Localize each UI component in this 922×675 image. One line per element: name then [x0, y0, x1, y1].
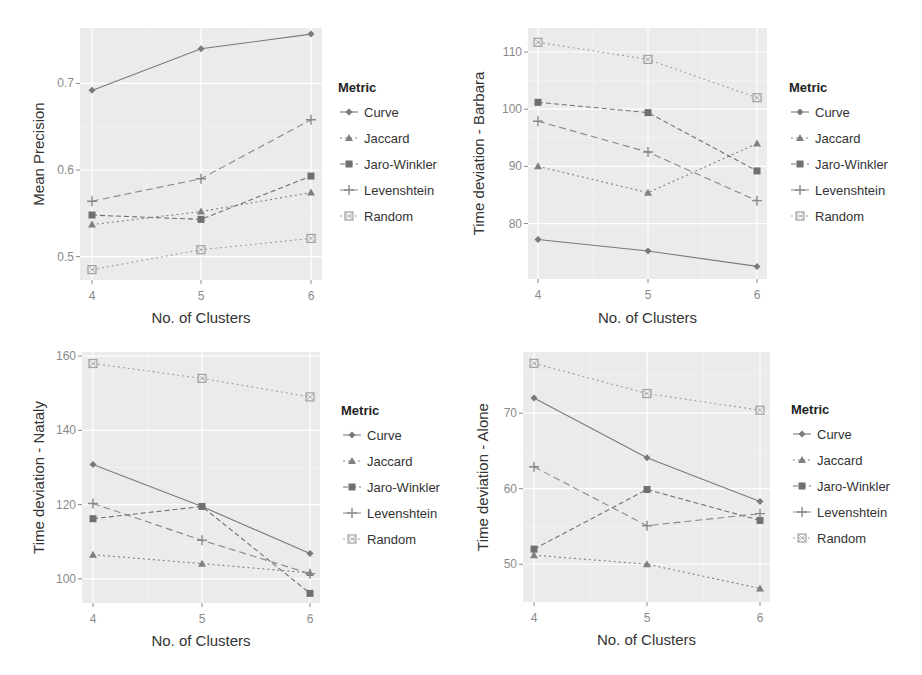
y-axis-title: Mean Precision: [30, 102, 47, 205]
y-axis-title: Time deviation - Nataly: [30, 401, 47, 554]
legend-label: Levenshtein: [817, 505, 887, 520]
x-tick-label: 6: [754, 288, 761, 302]
y-tick-label: 80: [509, 217, 523, 231]
x-axis-title: No. of Clusters: [598, 309, 697, 326]
legend-item-random: Random: [791, 209, 864, 224]
x-tick-label: 4: [535, 288, 542, 302]
marker-square-icon: [198, 216, 205, 223]
legend-item-jaccard: Jaccard: [791, 131, 861, 146]
x-tick-label: 5: [644, 611, 651, 625]
marker-square-icon: [797, 161, 804, 168]
marker-plus-icon: [795, 185, 805, 195]
chart-panel-4: 506070456No. of ClustersTime deviation -…: [474, 352, 891, 648]
marker-square-icon: [346, 161, 353, 168]
legend-item-curve: Curve: [791, 105, 850, 120]
y-axis: 506070: [504, 406, 523, 571]
legend-label: Levenshtein: [364, 183, 434, 198]
x-tick-label: 6: [307, 612, 314, 626]
marker-square-icon: [90, 515, 97, 522]
marker-diamond-icon: [799, 431, 806, 438]
legend-label: Curve: [367, 428, 402, 443]
marker-square-icon: [799, 483, 806, 490]
y-tick-label: 60: [504, 482, 518, 496]
marker-square-icon: [644, 486, 651, 493]
legend-item-random: Random: [793, 531, 866, 546]
x-axis: 456: [90, 603, 314, 626]
x-axis: 456: [531, 602, 764, 625]
legend-title: Metric: [789, 80, 827, 95]
legend-label: Jaro-Winkler: [815, 157, 889, 172]
y-tick-label: 160: [56, 349, 76, 363]
figure-grid: 0.50.60.7456No. of ClustersMean Precisio…: [0, 0, 922, 675]
legend-label: Curve: [815, 105, 850, 120]
y-axis-title: Time deviation - Barbara: [470, 71, 487, 235]
y-axis-title: Time deviation - Alone: [474, 403, 491, 551]
legend: MetricCurveJaccardJaro-WinklerLevenshtei…: [338, 80, 438, 224]
y-tick-label: 70: [504, 406, 518, 420]
legend-item-levenshtein: Levenshtein: [340, 183, 434, 198]
y-axis: 100120140160: [56, 349, 82, 586]
marker-plus-icon: [344, 185, 354, 195]
y-tick-label: 100: [56, 572, 76, 586]
legend-item-jaro-winkler: Jaro-Winkler: [791, 157, 889, 172]
chart-panel-2: 8090100110456No. of ClustersTime deviati…: [470, 28, 889, 326]
legend: MetricCurveJaccardJaro-WinklerLevenshtei…: [789, 80, 889, 224]
x-axis: 456: [535, 279, 761, 302]
marker-square-icon: [307, 590, 314, 597]
legend-item-curve: Curve: [340, 105, 399, 120]
y-tick-label: 0.6: [57, 163, 74, 177]
x-axis: 456: [89, 280, 315, 303]
legend-label: Jaccard: [817, 453, 863, 468]
legend-title: Metric: [341, 403, 379, 418]
y-tick-label: 90: [509, 159, 523, 173]
legend-item-jaccard: Jaccard: [793, 453, 863, 468]
y-tick-label: 0.7: [57, 76, 74, 90]
legend-label: Curve: [364, 105, 399, 120]
legend-item-jaro-winkler: Jaro-Winkler: [343, 480, 441, 495]
y-axis: 8090100110: [502, 45, 528, 231]
legend-item-levenshtein: Levenshtein: [791, 183, 885, 198]
x-axis-title: No. of Clusters: [597, 631, 696, 648]
legend-item-curve: Curve: [343, 428, 402, 443]
legend-label: Random: [815, 209, 864, 224]
marker-diamond-icon: [349, 432, 356, 439]
legend-item-random: Random: [343, 532, 416, 547]
legend-item-random: Random: [340, 209, 413, 224]
legend-label: Jaccard: [815, 131, 861, 146]
legend-item-jaro-winkler: Jaro-Winkler: [340, 157, 438, 172]
x-tick-label: 4: [531, 611, 538, 625]
x-axis-title: No. of Clusters: [151, 309, 250, 326]
x-tick-label: 6: [308, 289, 315, 303]
chart-panel-3: 100120140160456No. of ClustersTime devia…: [30, 349, 441, 649]
marker-square-icon: [199, 503, 206, 510]
legend-label: Jaro-Winkler: [364, 157, 438, 172]
x-axis-title: No. of Clusters: [151, 632, 250, 649]
legend-label: Levenshtein: [815, 183, 885, 198]
legend-label: Jaro-Winkler: [817, 479, 891, 494]
marker-square-icon: [531, 546, 538, 553]
marker-square-icon: [349, 484, 356, 491]
marker-square-icon: [308, 173, 315, 180]
x-tick-label: 5: [199, 612, 206, 626]
legend: MetricCurveJaccardJaro-WinklerLevenshtei…: [341, 403, 441, 547]
legend-label: Random: [367, 532, 416, 547]
legend-title: Metric: [791, 402, 829, 417]
x-tick-label: 4: [90, 612, 97, 626]
legend-item-jaccard: Jaccard: [343, 454, 413, 469]
marker-diamond-icon: [346, 109, 353, 116]
legend-label: Jaccard: [367, 454, 413, 469]
y-tick-label: 50: [504, 557, 518, 571]
y-axis: 0.50.60.7: [57, 76, 80, 263]
marker-plus-icon: [347, 508, 357, 518]
legend-label: Jaro-Winkler: [367, 480, 441, 495]
x-tick-label: 6: [757, 611, 764, 625]
marker-square-icon: [754, 167, 761, 174]
legend-label: Jaccard: [364, 131, 410, 146]
legend-item-jaro-winkler: Jaro-Winkler: [793, 479, 891, 494]
legend-item-curve: Curve: [793, 427, 852, 442]
marker-plus-icon: [797, 507, 807, 517]
marker-diamond-icon: [797, 109, 804, 116]
chart-panel-1: 0.50.60.7456No. of ClustersMean Precisio…: [30, 28, 438, 326]
marker-square-icon: [535, 99, 542, 106]
legend-item-levenshtein: Levenshtein: [793, 505, 887, 520]
